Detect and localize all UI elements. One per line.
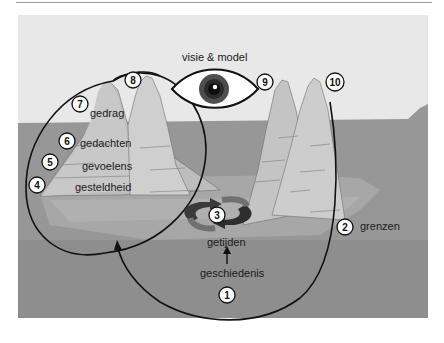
marker-7: 7 [72,96,88,112]
svg-text:5: 5 [47,157,53,168]
label-gevoelens: gevoelens [82,160,133,172]
svg-text:10: 10 [329,77,341,88]
title-label: visie & model [182,51,247,63]
label-gedachten: gedachten [80,137,131,149]
marker-10: 10 [326,73,344,91]
iceberg-diagram: visie & model gedrag gedachten gevoelens… [0,0,444,343]
marker-6: 6 [59,133,75,149]
svg-text:3: 3 [214,210,220,221]
marker-8: 8 [125,72,141,88]
marker-5: 5 [42,154,58,170]
svg-text:1: 1 [224,290,230,301]
label-gedrag: gedrag [90,107,124,119]
marker-3: 3 [209,207,225,223]
marker-1: 1 [219,287,235,303]
svg-text:9: 9 [262,77,268,88]
label-gesteldheid: gesteldheid [75,181,131,193]
marker-2: 2 [337,219,353,235]
marker-9: 9 [257,74,273,90]
svg-text:8: 8 [130,75,136,86]
sea-deep [18,240,428,318]
marker-4: 4 [29,177,45,193]
svg-text:4: 4 [34,180,40,191]
label-grenzen: grenzen [360,220,400,232]
svg-text:2: 2 [342,222,348,233]
svg-text:6: 6 [64,136,70,147]
svg-text:7: 7 [77,99,83,110]
label-getijden: getijden [207,236,246,248]
label-geschiedenis: geschiedenis [200,267,265,279]
